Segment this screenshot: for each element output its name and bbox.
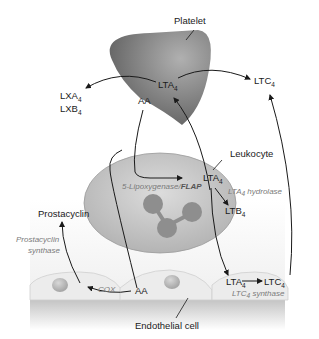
- prostacyclin-synthase-label-2: synthase: [28, 246, 61, 255]
- endothelial-aa-label: AA: [135, 285, 148, 296]
- ltc4-synthase-label: LTC4 synthase: [232, 289, 285, 299]
- ltc4-top-label: LTC4: [254, 75, 275, 88]
- cox-label: COX: [98, 285, 116, 294]
- endothelial-cell-label: Endothelial cell: [135, 320, 199, 331]
- lta4-hydrolase-label: LTA4 hydrolase: [228, 187, 283, 197]
- leukocyte-pointer: [213, 160, 222, 170]
- prostacyclin-synthase-label-1: Prostacyclin: [16, 235, 60, 244]
- leukocyte-cell: [84, 153, 236, 253]
- platelet-aa-label: AA: [138, 95, 151, 106]
- endothelial-nucleus-1: [52, 278, 68, 292]
- lxb4-label: LXB4: [60, 103, 82, 116]
- lxa4-label: LXA4: [60, 90, 82, 103]
- lipoxygenase-flap-label: 5-Lipoxygenase/FLAP: [122, 182, 202, 191]
- eicosanoid-diagram: Platelet Leukocyte Endothelial cell Pros…: [0, 0, 319, 339]
- leukocyte-label: Leukocyte: [230, 148, 273, 159]
- endothelial-nucleus-2: [164, 275, 180, 289]
- prostacyclin-label: Prostacyclin: [38, 208, 89, 219]
- platelet-cell: [110, 30, 211, 125]
- platelet-label: Platelet: [174, 15, 206, 26]
